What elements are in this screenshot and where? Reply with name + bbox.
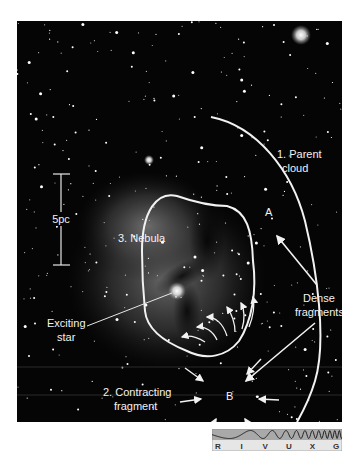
contracting-fragment-label-2: fragment	[114, 400, 157, 412]
star	[66, 70, 68, 72]
star	[116, 318, 119, 321]
star	[119, 177, 120, 178]
star	[49, 39, 50, 40]
spectrum-band-r: R	[215, 442, 221, 451]
star	[236, 101, 237, 102]
star	[305, 375, 307, 377]
star	[279, 411, 280, 412]
star	[115, 31, 118, 34]
exciting-star-label-2: star	[57, 331, 76, 343]
star	[17, 387, 18, 388]
star	[267, 301, 268, 302]
star	[237, 346, 238, 347]
star	[144, 339, 145, 340]
star	[295, 381, 296, 382]
star	[312, 328, 314, 330]
star	[125, 356, 126, 357]
point-a-label: A	[265, 206, 273, 218]
star	[90, 253, 91, 254]
star	[260, 293, 262, 295]
star	[243, 42, 245, 44]
star	[81, 23, 84, 26]
star	[57, 41, 58, 42]
star	[198, 330, 199, 331]
star	[143, 99, 144, 100]
exciting-star	[168, 282, 186, 300]
star	[201, 269, 204, 272]
star	[155, 34, 156, 35]
star	[244, 176, 245, 177]
star	[178, 368, 179, 369]
star	[29, 199, 30, 200]
star	[222, 313, 223, 314]
star	[327, 372, 329, 374]
star	[279, 312, 280, 313]
star	[127, 363, 129, 365]
star	[291, 285, 292, 286]
star	[88, 165, 89, 166]
star	[243, 90, 246, 93]
star	[286, 181, 288, 183]
arrow-to-b	[180, 399, 201, 402]
star	[283, 41, 285, 43]
star	[153, 98, 154, 99]
star	[95, 170, 97, 172]
star	[220, 362, 222, 364]
star	[42, 130, 43, 131]
star	[89, 269, 90, 270]
star	[201, 197, 202, 198]
star	[106, 287, 107, 288]
star	[264, 144, 265, 145]
star	[39, 92, 42, 95]
star	[316, 29, 317, 30]
star	[217, 185, 218, 186]
star	[132, 51, 135, 54]
star	[46, 114, 47, 115]
star	[262, 323, 263, 324]
star	[255, 155, 256, 156]
star	[165, 60, 166, 61]
star	[93, 183, 94, 184]
star	[148, 338, 149, 339]
star	[153, 207, 154, 208]
star	[46, 275, 47, 276]
arrow-to-b	[185, 368, 203, 381]
star	[33, 297, 35, 299]
star	[105, 245, 106, 246]
exciting-star-label-1: Exciting	[47, 317, 86, 329]
star	[52, 349, 54, 351]
star	[18, 23, 19, 24]
star	[196, 392, 197, 393]
star	[126, 294, 128, 296]
star	[61, 390, 62, 391]
star	[24, 325, 27, 328]
star	[191, 21, 193, 23]
star	[269, 95, 270, 96]
star	[62, 150, 63, 151]
star	[300, 246, 301, 247]
star	[226, 193, 228, 195]
star	[252, 381, 253, 382]
star	[189, 267, 190, 268]
star	[307, 270, 308, 271]
nebula-label: 3. Nebula	[118, 232, 166, 244]
star	[330, 329, 331, 330]
star	[208, 321, 210, 323]
star	[149, 220, 150, 221]
spectrum-band-g: G	[333, 442, 339, 451]
star	[314, 341, 315, 342]
star	[326, 288, 327, 289]
star	[200, 146, 203, 149]
parent-cloud-label-1: 1. Parent	[277, 148, 322, 160]
star	[28, 355, 30, 357]
star	[280, 103, 282, 105]
star	[175, 404, 176, 405]
star	[178, 33, 180, 35]
star	[222, 274, 224, 276]
star	[198, 161, 200, 163]
star	[225, 176, 227, 178]
star	[327, 131, 329, 133]
star	[337, 419, 338, 420]
star	[329, 391, 330, 392]
star	[287, 414, 288, 415]
